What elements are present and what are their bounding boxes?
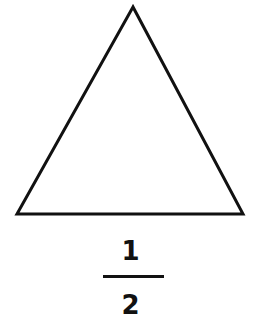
fraction-numerator: 1: [0, 238, 261, 264]
triangle-shape: [17, 7, 243, 214]
fraction-denominator: 2: [0, 292, 261, 318]
fraction-bar: [103, 275, 164, 278]
